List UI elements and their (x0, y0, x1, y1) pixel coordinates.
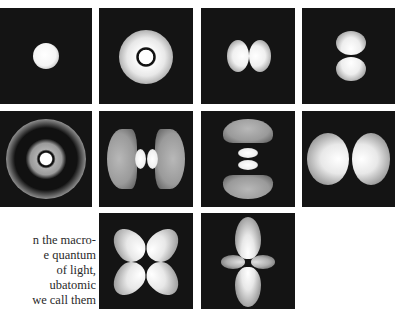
orbital-lobe-bottom-left (107, 256, 152, 302)
orbital-lobe-top (336, 31, 366, 55)
orbital-lobe-right (352, 133, 390, 185)
body-text: n the macro- e quantum of light, ubatomi… (0, 233, 96, 308)
orbital-crescent-left (107, 129, 137, 189)
orbital-panel-3s (0, 111, 92, 207)
orbital-panel-3p-large (302, 111, 395, 207)
orbital-lobe-inner-left (135, 149, 146, 169)
text-line: n the macro- (0, 233, 96, 248)
orbital-lobe-left (221, 255, 245, 269)
orbital-lobe-inner-right (147, 149, 158, 169)
orbital-lobe-right (251, 255, 275, 269)
orbital-lobe-left (227, 40, 249, 72)
orbital-lobe (33, 43, 59, 69)
orbital-halo (119, 30, 173, 84)
orbital-lobe-bottom (336, 57, 366, 81)
text-line: we call them (0, 293, 96, 308)
orbital-panel-3d-xy (99, 213, 193, 309)
orbital-crescent-bottom (223, 175, 273, 199)
orbital-panel-3d-z2 (201, 213, 295, 309)
orbital-lobe-right (249, 40, 271, 72)
orbital-crescent-top (223, 119, 273, 143)
text-line: of light, (0, 263, 96, 278)
orbital-lobe-left (307, 133, 349, 185)
text-line: ubatomic (0, 278, 96, 293)
orbital-panel-3p-x (99, 111, 193, 207)
orbital-lobe-bottom (235, 267, 261, 307)
orbital-lobe-inner-bottom (238, 160, 258, 170)
orbital-panel-1s (0, 8, 92, 104)
orbital-panel-2p-z (302, 8, 395, 104)
orbital-panel-2p-x (201, 8, 295, 104)
orbital-lobe-inner-top (238, 148, 258, 158)
orbital-panel-2s (99, 8, 193, 104)
orbital-lobe-top (235, 217, 261, 259)
text-line: e quantum (0, 248, 96, 263)
orbital-crescent-right (155, 129, 185, 189)
orbital-panel-3p-z (201, 111, 295, 207)
orbital-rings (6, 119, 86, 199)
orbital-lobe-bottom-right (141, 256, 186, 302)
